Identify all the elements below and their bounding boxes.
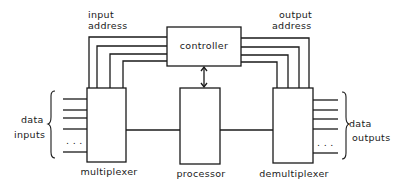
data-inputs-label-2: inputs: [14, 129, 45, 140]
data-outputs-label-2: outputs: [352, 132, 390, 143]
left-brace-icon: [48, 91, 55, 158]
input-address-label-1: input: [88, 9, 114, 20]
controller-label: controller: [180, 40, 228, 51]
input-address-bus: [89, 37, 167, 88]
input-address-label-2: address: [88, 20, 127, 31]
data-inputs-label-1: data: [21, 114, 44, 125]
right-brace-icon: [342, 92, 349, 159]
bidirectional-arrow-icon: [201, 67, 207, 87]
data-outputs-ellipsis: . . .: [317, 137, 334, 148]
multiplexer-box: [87, 88, 126, 162]
multiplexer-label: multiplexer: [80, 166, 137, 177]
data-outputs-label-1: data: [349, 118, 372, 129]
output-address-label-1: output: [279, 9, 312, 20]
block-diagram: [0, 0, 400, 187]
output-address-label-2: address: [272, 20, 311, 31]
processor-label: processor: [177, 168, 226, 179]
demultiplexer-box: [273, 88, 313, 163]
data-inputs-ellipsis: . . .: [66, 135, 83, 146]
processor-box: [180, 88, 220, 164]
demultiplexer-label: demultiplexer: [259, 168, 328, 179]
output-address-bus: [241, 38, 309, 88]
